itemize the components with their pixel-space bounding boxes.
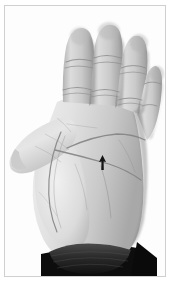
palm-arrow-marker [98, 155, 107, 170]
hand-illustration [5, 6, 165, 276]
hand-photograph [5, 6, 165, 276]
figure-root: Open right palm, palmar view [0, 0, 172, 283]
